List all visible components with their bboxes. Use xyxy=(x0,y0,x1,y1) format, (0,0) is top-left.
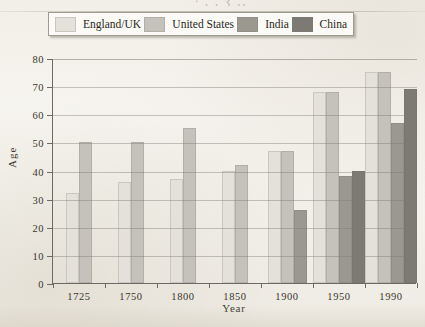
x-tick-label-1900: 1900 xyxy=(275,291,298,302)
y-tick-label-60: 60 xyxy=(33,110,45,121)
legend-label: England/UK xyxy=(83,18,141,30)
y-tick-60 xyxy=(47,115,53,116)
gridline-10 xyxy=(53,256,417,257)
x-tick-end xyxy=(417,283,418,288)
x-tick-5 xyxy=(313,283,314,288)
plot-area: 0102030405060708017251750180018501900195… xyxy=(52,59,416,284)
legend-item-india[interactable]: India xyxy=(237,13,289,35)
y-tick-10 xyxy=(47,256,53,257)
y-tick-label-20: 20 xyxy=(33,222,45,233)
x-tick-label-1725: 1725 xyxy=(67,291,90,302)
y-tick-80 xyxy=(47,59,53,60)
bar-group-1750 xyxy=(118,58,144,283)
y-tick-label-70: 70 xyxy=(33,82,45,93)
bar-united-states-1950[interactable] xyxy=(326,92,339,283)
y-tick-label-80: 80 xyxy=(33,54,45,65)
chart-legend: England/UKUnited StatesIndiaChina xyxy=(48,12,354,36)
legend-swatch-icon xyxy=(237,17,258,32)
bar-england-uk-1750[interactable] xyxy=(118,182,131,283)
legend-swatch-icon xyxy=(144,17,165,32)
legend-swatch-icon xyxy=(292,17,313,32)
bar-united-states-1850[interactable] xyxy=(235,165,248,283)
bar-india-1990[interactable] xyxy=(391,123,404,283)
bar-united-states-1725[interactable] xyxy=(79,142,92,283)
title-fragment: · , , ʒ ,, xyxy=(195,0,315,6)
y-tick-label-30: 30 xyxy=(33,194,45,205)
legend-label: India xyxy=(265,18,289,30)
gridline-50 xyxy=(53,143,417,144)
bar-group-1850 xyxy=(222,58,248,283)
y-tick-label-40: 40 xyxy=(33,166,45,177)
gridline-30 xyxy=(53,200,417,201)
x-tick-3 xyxy=(209,283,210,288)
bar-china-1990[interactable] xyxy=(404,89,417,283)
x-tick-label-1850: 1850 xyxy=(223,291,246,302)
legend-item-china[interactable]: China xyxy=(292,13,347,35)
bar-india-1900[interactable] xyxy=(294,210,307,283)
x-tick-label-1750: 1750 xyxy=(119,291,142,302)
x-tick-4 xyxy=(261,283,262,288)
x-tick-1 xyxy=(105,283,106,288)
gridline-70 xyxy=(53,87,417,88)
gridline-60 xyxy=(53,115,417,116)
y-tick-label-10: 10 xyxy=(33,250,45,261)
legend-swatch-icon xyxy=(55,17,76,32)
bar-united-states-1990[interactable] xyxy=(378,72,391,283)
legend-item-england-uk[interactable]: England/UK xyxy=(55,13,141,35)
gridline-20 xyxy=(53,228,417,229)
gridline-40 xyxy=(53,172,417,173)
x-tick-2 xyxy=(157,283,158,288)
bar-united-states-1800[interactable] xyxy=(183,128,196,283)
bar-india-1950[interactable] xyxy=(339,176,352,283)
bar-england-uk-1990[interactable] xyxy=(365,72,378,283)
y-tick-20 xyxy=(47,228,53,229)
x-tick-0 xyxy=(53,283,54,288)
bar-united-states-1750[interactable] xyxy=(131,142,144,283)
y-tick-70 xyxy=(47,87,53,88)
y-tick-30 xyxy=(47,200,53,201)
y-axis-title: Age xyxy=(6,147,18,168)
bar-group-1900 xyxy=(268,58,307,283)
x-tick-label-1800: 1800 xyxy=(171,291,194,302)
legend-item-united-states[interactable]: United States xyxy=(144,13,234,35)
bar-england-uk-1725[interactable] xyxy=(66,193,79,283)
bar-china-1950[interactable] xyxy=(352,171,365,284)
bar-group-1725 xyxy=(66,58,92,283)
bar-england-uk-1850[interactable] xyxy=(222,171,235,284)
x-tick-label-1990: 1990 xyxy=(379,291,402,302)
y-tick-label-50: 50 xyxy=(33,138,45,149)
bar-england-uk-1800[interactable] xyxy=(170,179,183,283)
x-tick-6 xyxy=(365,283,366,288)
bar-england-uk-1950[interactable] xyxy=(313,92,326,283)
y-tick-40 xyxy=(47,172,53,173)
legend-label: United States xyxy=(172,18,234,30)
y-tick-label-0: 0 xyxy=(38,279,44,290)
legend-label: China xyxy=(320,18,347,30)
bar-group-1990 xyxy=(365,58,417,283)
gridline-80 xyxy=(53,59,417,60)
bar-group-1800 xyxy=(170,58,196,283)
y-tick-50 xyxy=(47,143,53,144)
bars-layer xyxy=(53,58,417,283)
x-tick-label-1950: 1950 xyxy=(327,291,350,302)
x-axis-title: Year xyxy=(52,302,416,314)
bar-group-1950 xyxy=(313,58,365,283)
